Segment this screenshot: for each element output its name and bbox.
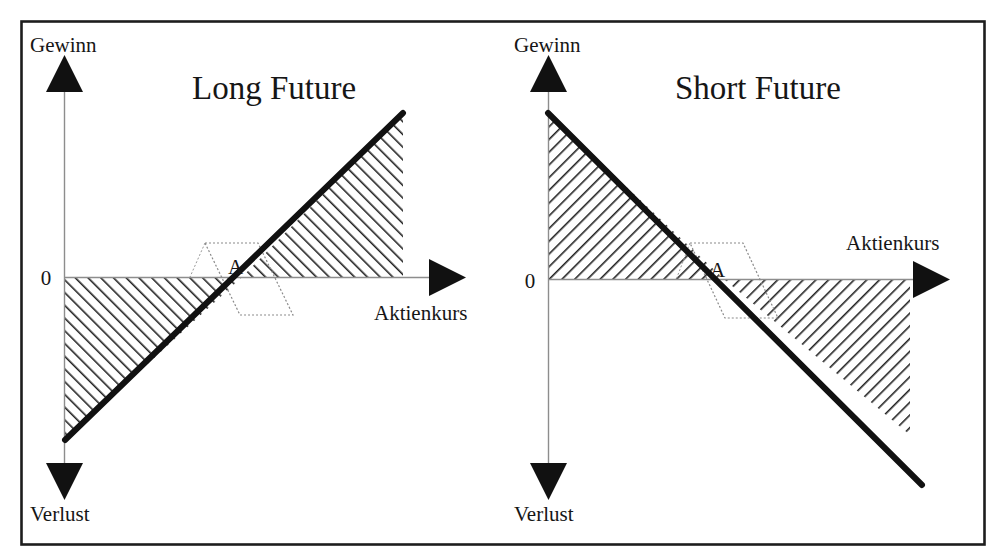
x-axis-label-long: Aktienkurs <box>374 301 467 325</box>
origin-label-short: 0 <box>525 269 536 293</box>
figure-root: Long Future Gewinn Verlust Aktienkurs 0 … <box>0 0 1005 559</box>
chart-title-long: Long Future <box>192 70 356 106</box>
y-axis-top-label-short: Gewinn <box>514 33 581 57</box>
origin-label-long: 0 <box>41 266 52 290</box>
y-axis-bottom-label-short: Verlust <box>514 502 574 526</box>
strike-label-long: A <box>228 255 244 279</box>
payoff-diagram-figure: Long Future Gewinn Verlust Aktienkurs 0 … <box>0 0 1005 559</box>
chart-title-short: Short Future <box>675 70 841 106</box>
y-axis-bottom-label-long: Verlust <box>30 502 90 526</box>
strike-label-short: A <box>710 258 726 282</box>
y-axis-top-label-long: Gewinn <box>30 33 97 57</box>
x-axis-label-short: Aktienkurs <box>846 231 939 255</box>
